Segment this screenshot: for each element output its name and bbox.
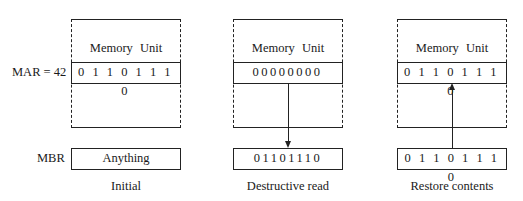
memory-word-addr-42: 0 1 1 0 1 1 1 0 [397, 62, 507, 84]
memory-word-addr-42: 0 1 1 0 1 1 1 0 [71, 62, 181, 84]
mbr-register: Anything [71, 148, 181, 170]
mbr-label: MBR [37, 151, 65, 165]
panel-caption: Destructive read [218, 179, 358, 194]
read-arrow-line [288, 83, 289, 141]
mbr-register: 0 1 1 0 1 1 1 0 [397, 148, 507, 170]
memory-unit-box: Memory Unit 0 1 1 0 1 1 1 0 [71, 19, 181, 128]
arrow-up-icon [449, 83, 455, 90]
memory-unit-title: Memory Unit [398, 41, 506, 56]
panel-caption: Restore contents [382, 179, 522, 194]
mar-label: MAR = 42 [12, 65, 66, 79]
memory-unit-title: Memory Unit [72, 41, 180, 56]
arrow-down-icon [285, 141, 291, 148]
memory-word-addr-42: 00000000 [233, 62, 343, 84]
restore-arrow-line [452, 90, 453, 148]
panel-caption: Initial [56, 179, 196, 194]
mbr-register: 01101110 [233, 148, 343, 170]
memory-unit-title: Memory Unit [234, 41, 342, 56]
